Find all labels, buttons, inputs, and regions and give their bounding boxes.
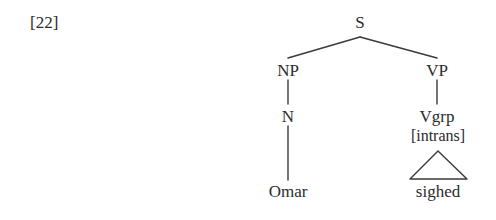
node-s: S — [355, 14, 364, 31]
edge-s-to-np — [288, 37, 360, 58]
node-vgrp: Vgrp — [420, 108, 455, 125]
node-np: NP — [277, 62, 299, 79]
terminal-omar: Omar — [269, 183, 308, 200]
node-vp: VP — [426, 62, 448, 79]
terminal-sighed: sighed — [416, 183, 460, 200]
sighed-triangle — [410, 151, 467, 179]
node-vgrp-feature: [intrans] — [411, 128, 465, 144]
syntax-tree-figure: [22] S NP VP N Vgrp [intrans] Omar sighe… — [0, 0, 496, 220]
node-n: N — [282, 108, 294, 125]
edge-s-to-vp — [360, 37, 437, 58]
